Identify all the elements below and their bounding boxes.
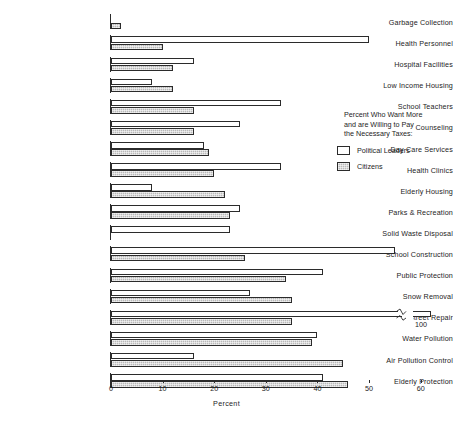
bar-political-leaders-health-clinics [111, 163, 281, 170]
bar-political-leaders-low-income-housing [111, 79, 152, 86]
chart-row-public-protection: Public Protection [0, 265, 453, 286]
chart-row-snow-removal: Snow Removal [0, 286, 453, 307]
chart-row-elderly-protection: Elderly Protection [0, 371, 453, 392]
bars-group [111, 265, 453, 286]
value-annotation-street-repair: 100 [415, 320, 427, 329]
bar-political-leaders-counseling [111, 121, 240, 128]
bar-citizens-health-personnel [111, 44, 163, 51]
white-box-swatch-icon [337, 146, 350, 155]
bar-political-leaders-solid-waste-disposal [111, 226, 230, 233]
bar-citizens-parks-and-recreation [111, 212, 230, 219]
x-tick-label-10: 10 [159, 384, 167, 393]
legend-title-line-3: the Necessary Taxes: [344, 129, 453, 139]
x-tick-10 [163, 380, 164, 383]
chart-rows: Garbage CollectionHealth PersonnelHospit… [0, 12, 453, 392]
x-tick-label-30: 30 [262, 384, 270, 393]
chart-row-school-construction: School Construction [0, 244, 453, 265]
x-tick-0 [111, 380, 112, 383]
bars-group [111, 223, 453, 244]
bars-group [111, 75, 453, 96]
chart-row-low-income-housing: Low Income Housing [0, 75, 453, 96]
bar-political-leaders-health-personnel [111, 36, 369, 43]
bar-political-leaders-elderly-housing [111, 184, 152, 191]
bar-political-leaders-school-construction [111, 247, 395, 254]
gray-hatched-box-swatch-icon [337, 162, 350, 171]
bar-political-leaders-water-pollution [111, 332, 317, 339]
bar-citizens-street-repair [111, 318, 292, 325]
bars-group [111, 12, 453, 33]
bar-citizens-hospital-facilities [111, 65, 173, 72]
chart-legend: Percent Who Want More and are Willing to… [337, 110, 453, 171]
legend-title-line-1: Percent Who Want More [344, 110, 453, 120]
bar-political-leaders-school-teachers [111, 100, 281, 107]
x-tick-label-60: 60 [417, 384, 425, 393]
bar-citizens-health-clinics [111, 170, 214, 177]
bars-group [111, 54, 453, 75]
bar-political-leaders-snow-removal [111, 290, 250, 297]
bar-citizens-school-teachers [111, 107, 194, 114]
bar-political-leaders-parks-and-recreation [111, 205, 240, 212]
legend-entry-political-leaders: Political Leaders [337, 146, 453, 155]
bar-political-leaders-hospital-facilities [111, 58, 194, 65]
bars-group [111, 286, 453, 307]
chart-row-health-personnel: Health Personnel [0, 33, 453, 54]
chart-row-elderly-housing: Elderly Housing [0, 181, 453, 202]
legend-label-citizens: Citizens [357, 162, 383, 171]
horizontal-bar-chart: Garbage CollectionHealth PersonnelHospit… [0, 0, 453, 430]
x-axis-title: Percent [0, 399, 453, 408]
x-tick-label-40: 40 [313, 384, 321, 393]
bar-citizens-school-construction [111, 255, 245, 262]
legend-title-line-2: and are Willing to Pay [344, 120, 453, 130]
legend-entry-citizens: Citizens [337, 162, 453, 171]
x-tick-50 [369, 380, 370, 383]
bar-citizens-elderly-housing [111, 191, 225, 198]
bars-group [111, 244, 453, 265]
x-tick-label-50: 50 [365, 384, 373, 393]
legend-title: Percent Who Want More and are Willing to… [344, 110, 453, 139]
bars-group [111, 202, 453, 223]
bar-citizens-air-pollution-control [111, 360, 343, 367]
bars-group [111, 307, 453, 328]
bar-citizens-low-income-housing [111, 86, 173, 93]
bar-political-leaders-street-repair [111, 311, 431, 318]
chart-row-hospital-facilities: Hospital Facilities [0, 54, 453, 75]
bars-group [111, 181, 453, 202]
x-axis: 0102030405060 [111, 380, 431, 381]
bar-citizens-snow-removal [111, 297, 292, 304]
chart-row-water-pollution: Water Pollution [0, 328, 453, 349]
chart-row-solid-waste-disposal: Solid Waste Disposal [0, 223, 453, 244]
x-tick-40 [317, 380, 318, 383]
chart-row-garbage-collection: Garbage Collection [0, 12, 453, 33]
bar-citizens-public-protection [111, 276, 286, 283]
bar-citizens-garbage-collection [111, 23, 121, 30]
bar-citizens-day-care-services [111, 149, 209, 156]
chart-row-street-repair: Street Repair [0, 307, 453, 328]
x-tick-label-20: 20 [210, 384, 218, 393]
bar-political-leaders-public-protection [111, 269, 323, 276]
x-tick-20 [214, 380, 215, 383]
chart-row-air-pollution-control: Air Pollution Control [0, 350, 453, 371]
x-tick-30 [266, 380, 267, 383]
bars-group [111, 328, 453, 349]
bar-citizens-counseling [111, 128, 194, 135]
bar-citizens-water-pollution [111, 339, 312, 346]
bar-political-leaders-day-care-services [111, 142, 204, 149]
axis-break-gap [398, 311, 406, 316]
bars-group [111, 350, 453, 371]
x-tick-60 [421, 380, 422, 383]
chart-row-parks-and-recreation: Parks & Recreation [0, 202, 453, 223]
legend-label-political-leaders: Political Leaders [357, 146, 410, 155]
bar-political-leaders-air-pollution-control [111, 353, 194, 360]
x-tick-label-0: 0 [109, 384, 113, 393]
bars-group [111, 33, 453, 54]
